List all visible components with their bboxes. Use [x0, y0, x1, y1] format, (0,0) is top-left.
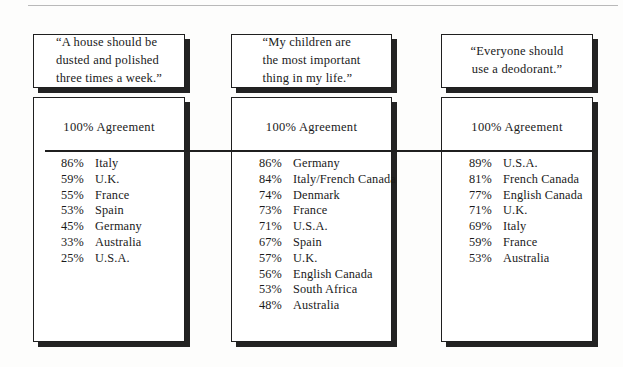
stat-row: 53%South Africa	[259, 282, 396, 298]
stat-row: 71%U.S.A.	[259, 219, 396, 235]
stat-row: 86%Germany	[259, 156, 396, 172]
stat-percent: 69%	[469, 219, 503, 235]
stat-percent: 73%	[259, 203, 293, 219]
stat-row: 67%Spain	[259, 235, 396, 251]
stat-percent: 55%	[61, 188, 95, 204]
stat-row: 45%Germany	[61, 219, 142, 235]
stat-country: Italy	[95, 156, 118, 170]
stat-country: U.S.A.	[293, 219, 328, 233]
stat-row: 77%English Canada	[469, 188, 583, 204]
stat-percent: 56%	[259, 267, 293, 283]
stat-percent: 67%	[259, 235, 293, 251]
stat-country: South Africa	[293, 282, 357, 296]
stat-row: 55%France	[61, 188, 142, 204]
stat-percent: 71%	[469, 203, 503, 219]
quote-box-2: “My children are the most important thin…	[231, 34, 392, 88]
stat-percent: 74%	[259, 188, 293, 204]
stat-country: English Canada	[293, 267, 373, 281]
stat-row: 89%U.S.A.	[469, 156, 583, 172]
stat-percent: 81%	[469, 172, 503, 188]
stat-row: 53%Spain	[61, 203, 142, 219]
stat-percent: 84%	[259, 172, 293, 188]
stat-country: Denmark	[293, 188, 340, 202]
stat-percent: 59%	[469, 235, 503, 251]
stat-country: France	[503, 235, 537, 249]
stat-country: French Canada	[503, 172, 579, 186]
stat-percent: 86%	[61, 156, 95, 172]
stat-row: 53%Australia	[469, 251, 583, 267]
stat-row: 56%English Canada	[259, 267, 396, 283]
data-box-3: 100% Agreement 89%U.S.A. 81%French Canad…	[441, 97, 593, 342]
stat-percent: 86%	[259, 156, 293, 172]
stat-country: U.S.A.	[503, 156, 538, 170]
stat-row: 25%U.S.A.	[61, 251, 142, 267]
stat-percent: 53%	[61, 203, 95, 219]
stat-country: Australia	[293, 298, 339, 312]
stat-country: U.K.	[95, 172, 120, 186]
stat-percent: 57%	[259, 251, 293, 267]
stat-percent: 33%	[61, 235, 95, 251]
stat-row: 33%Australia	[61, 235, 142, 251]
stat-list-2: 86%Germany 84%Italy/French Canada 74%Den…	[259, 156, 396, 314]
stat-country: English Canada	[503, 188, 583, 202]
stat-percent: 59%	[61, 172, 95, 188]
stat-percent: 48%	[259, 298, 293, 314]
stat-row: 81%French Canada	[469, 172, 583, 188]
stat-percent: 71%	[259, 219, 293, 235]
stat-country: Spain	[293, 235, 322, 249]
page-top-rule	[28, 5, 618, 6]
stat-country: U.S.A.	[95, 251, 130, 265]
agreement-baseline-rule	[45, 150, 595, 152]
quote-box-1: “A house should be dusted and polished t…	[33, 34, 185, 88]
agreement-label-2: 100% Agreement	[232, 120, 391, 135]
stat-row: 57%U.K.	[259, 251, 396, 267]
stat-row: 73%France	[259, 203, 396, 219]
stat-country: Spain	[95, 203, 124, 217]
stat-country: Germany	[95, 219, 142, 233]
stat-row: 84%Italy/French Canada	[259, 172, 396, 188]
stat-percent: 77%	[469, 188, 503, 204]
stat-row: 69%Italy	[469, 219, 583, 235]
quote-box-3: “Everyone should use a deodorant.”	[441, 34, 593, 88]
quote-text-1: “A house should be dusted and polished t…	[56, 34, 162, 87]
stat-row: 86%Italy	[61, 156, 142, 172]
stat-list-1: 86%Italy 59%U.K. 55%France 53%Spain 45%G…	[61, 156, 142, 267]
stat-percent: 53%	[259, 282, 293, 298]
stat-percent: 53%	[469, 251, 503, 267]
stat-list-3: 89%U.S.A. 81%French Canada 77%English Ca…	[469, 156, 583, 267]
stat-percent: 25%	[61, 251, 95, 267]
stat-country: Italy	[503, 219, 526, 233]
stat-country: U.K.	[503, 203, 528, 217]
quote-text-3: “Everyone should use a deodorant.”	[470, 43, 563, 79]
data-box-1: 100% Agreement 86%Italy 59%U.K. 55%Franc…	[33, 97, 185, 342]
agreement-label-1: 100% Agreement	[34, 120, 184, 135]
stat-country: France	[293, 203, 327, 217]
stat-country: France	[95, 188, 129, 202]
agreement-label-3: 100% Agreement	[442, 120, 592, 135]
stat-row: 71%U.K.	[469, 203, 583, 219]
stat-row: 59%France	[469, 235, 583, 251]
stat-country: U.K.	[293, 251, 318, 265]
stat-country: Germany	[293, 156, 340, 170]
stat-country: Australia	[503, 251, 549, 265]
stat-country: Italy/French Canada	[293, 172, 396, 186]
stat-percent: 89%	[469, 156, 503, 172]
data-box-2: 100% Agreement 86%Germany 84%Italy/Frenc…	[231, 97, 392, 342]
stat-row: 74%Denmark	[259, 188, 396, 204]
quote-text-2: “My children are the most important thin…	[262, 34, 360, 87]
stat-country: Australia	[95, 235, 141, 249]
stat-row: 59%U.K.	[61, 172, 142, 188]
stat-percent: 45%	[61, 219, 95, 235]
stat-row: 48%Australia	[259, 298, 396, 314]
